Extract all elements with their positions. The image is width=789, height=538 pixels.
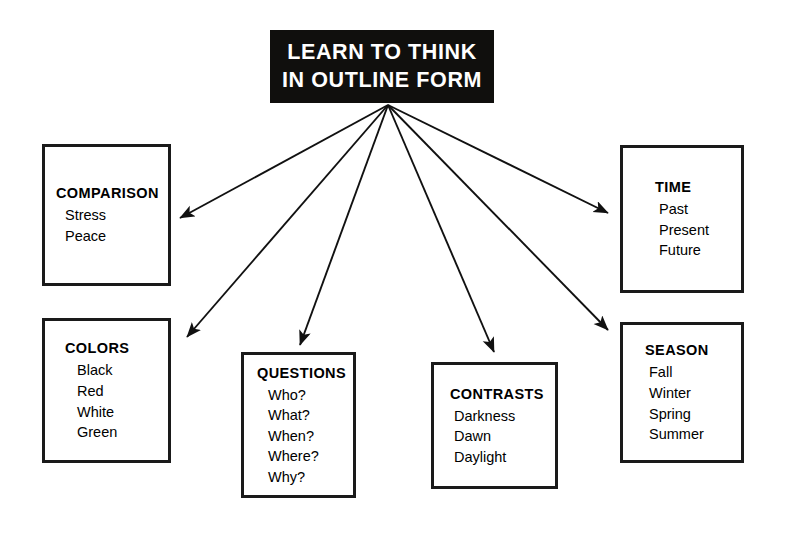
arrow-to-questions xyxy=(300,105,388,345)
category-box-time: TIME PastPresentFuture xyxy=(620,145,744,293)
category-item-list: FallWinterSpringSummer xyxy=(645,362,741,444)
category-item: Where? xyxy=(268,446,353,467)
category-box-contrasts: CONTRASTS DarknessDawnDaylight xyxy=(431,362,558,489)
category-item-list: BlackRedWhiteGreen xyxy=(65,360,168,442)
category-item: Present xyxy=(659,220,741,241)
category-item: Peace xyxy=(65,226,168,247)
category-title: COLORS xyxy=(65,338,168,359)
category-item: Winter xyxy=(649,383,741,404)
category-item: Green xyxy=(77,422,168,443)
category-item: Spring xyxy=(649,404,741,425)
category-item: Daylight xyxy=(454,447,555,468)
category-title: TIME xyxy=(655,177,741,198)
category-item: Stress xyxy=(65,205,168,226)
category-title: QUESTIONS xyxy=(257,363,353,384)
category-item: Darkness xyxy=(454,406,555,427)
arrow-to-colors xyxy=(187,105,388,337)
title-banner: LEARN TO THINK IN OUTLINE FORM xyxy=(270,30,494,103)
category-title: COMPARISON xyxy=(56,183,168,204)
arrow-to-contrasts xyxy=(388,105,494,352)
category-item-list: PastPresentFuture xyxy=(655,199,741,261)
category-item: Dawn xyxy=(454,426,555,447)
title-line-1: LEARN TO THINK xyxy=(287,39,477,67)
category-box-colors: COLORS BlackRedWhiteGreen xyxy=(42,318,171,463)
category-item: White xyxy=(77,402,168,423)
category-item: Red xyxy=(77,381,168,402)
category-item-list: DarknessDawnDaylight xyxy=(450,406,555,468)
category-box-comparison: COMPARISON StressPeace xyxy=(42,144,171,286)
title-line-2: IN OUTLINE FORM xyxy=(282,67,482,95)
category-item-list: StressPeace xyxy=(56,205,168,246)
category-box-season: SEASON FallWinterSpringSummer xyxy=(620,322,744,463)
outline-diagram: LEARN TO THINK IN OUTLINE FORM COMPARISO… xyxy=(0,0,789,538)
category-item: What? xyxy=(268,405,353,426)
category-item: Fall xyxy=(649,362,741,383)
category-item-list: Who?What?When?Where?Why? xyxy=(257,385,353,488)
arrow-to-comparison xyxy=(180,105,388,218)
category-item: Who? xyxy=(268,385,353,406)
category-title: SEASON xyxy=(645,340,741,361)
category-item: When? xyxy=(268,426,353,447)
category-item: Future xyxy=(659,240,741,261)
category-title: CONTRASTS xyxy=(450,384,555,405)
category-item: Black xyxy=(77,360,168,381)
arrow-to-season xyxy=(388,105,608,330)
category-item: Past xyxy=(659,199,741,220)
category-box-questions: QUESTIONS Who?What?When?Where?Why? xyxy=(241,352,356,498)
category-item: Summer xyxy=(649,424,741,445)
arrow-to-time xyxy=(388,105,608,213)
category-item: Why? xyxy=(268,467,353,488)
